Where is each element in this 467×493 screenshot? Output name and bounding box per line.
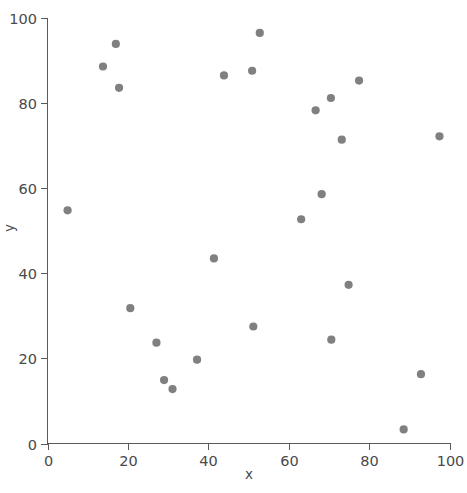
data-point	[220, 71, 228, 79]
data-point	[327, 336, 335, 344]
x-tick-label: 100	[437, 453, 465, 469]
x-tick-label: 60	[280, 453, 298, 469]
data-point	[115, 84, 123, 92]
plot-canvas: 020406080100 020406080100 x y	[0, 0, 467, 493]
x-axis-ticks	[49, 444, 451, 451]
x-axis-tick-labels: 020406080100	[44, 453, 464, 469]
data-point	[256, 29, 264, 37]
y-tick-label: 40	[19, 266, 37, 282]
data-point	[160, 376, 168, 384]
x-tick-label: 0	[44, 453, 53, 469]
scatter-plot-figure: 020406080100 020406080100 x y	[0, 0, 467, 493]
y-tick-label: 60	[19, 181, 37, 197]
x-tick-label: 80	[360, 453, 378, 469]
data-point	[112, 40, 120, 48]
y-tick-label: 20	[19, 351, 37, 367]
data-point	[338, 136, 346, 144]
data-point	[345, 281, 353, 289]
y-axis-title: y	[1, 224, 17, 232]
data-point	[355, 76, 363, 84]
x-tick-label: 20	[119, 453, 137, 469]
x-axis-title: x	[245, 466, 253, 482]
data-point	[312, 106, 320, 114]
data-point	[152, 339, 160, 347]
y-tick-label: 100	[9, 11, 37, 27]
data-point	[327, 94, 335, 102]
y-tick-label: 0	[28, 437, 37, 453]
data-point	[417, 370, 425, 378]
data-point	[168, 385, 176, 393]
data-point	[210, 254, 218, 262]
data-point	[99, 62, 107, 70]
data-point	[249, 322, 257, 330]
data-point	[400, 425, 408, 433]
y-axis-ticks	[41, 19, 48, 445]
x-tick-label: 40	[199, 453, 217, 469]
data-point	[297, 215, 305, 223]
data-point	[193, 356, 201, 364]
data-point	[248, 67, 256, 75]
y-tick-label: 80	[19, 96, 37, 112]
data-point	[126, 304, 134, 312]
data-point	[435, 132, 443, 140]
data-point	[64, 206, 72, 214]
data-point	[318, 190, 326, 198]
scatter-data-points	[64, 29, 444, 434]
